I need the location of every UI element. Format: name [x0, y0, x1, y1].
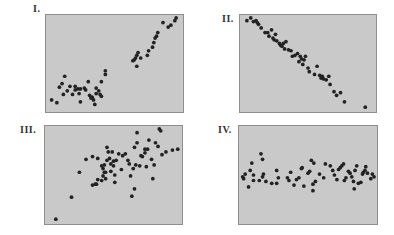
data-point [304, 54, 308, 58]
data-point [171, 148, 175, 152]
data-point [259, 152, 263, 156]
data-point [104, 170, 108, 174]
data-point [323, 162, 327, 166]
scatter-panel-2 [239, 14, 377, 113]
data-point [296, 52, 300, 56]
data-point [342, 162, 346, 166]
scatter-panel-1 [45, 14, 184, 113]
data-point [297, 60, 301, 64]
data-point [352, 180, 356, 184]
data-point [54, 217, 58, 221]
data-point [94, 92, 98, 96]
data-point [109, 169, 113, 173]
panel-label-4: IV. [218, 124, 232, 135]
data-point [139, 56, 143, 60]
data-point [135, 141, 139, 145]
data-point [308, 169, 312, 173]
data-point [73, 84, 77, 88]
data-point [311, 189, 315, 193]
data-point [343, 100, 347, 104]
data-point [133, 187, 137, 191]
data-point [333, 173, 337, 177]
data-point [266, 31, 270, 35]
data-point [134, 163, 138, 167]
data-point [359, 180, 363, 184]
data-point [123, 152, 127, 156]
data-point [101, 174, 105, 178]
data-point [372, 175, 376, 179]
data-point [108, 157, 112, 161]
data-point [151, 45, 155, 49]
data-point [68, 84, 72, 88]
data-point [63, 74, 67, 78]
data-point [50, 98, 54, 102]
scatter-plot-2 [240, 15, 376, 112]
data-point [274, 32, 278, 36]
data-point [103, 69, 107, 73]
data-point [327, 74, 331, 78]
data-point [112, 164, 116, 168]
data-point [331, 169, 335, 173]
data-point [101, 167, 105, 171]
data-point [129, 174, 133, 178]
data-point [156, 145, 160, 149]
data-point [369, 177, 373, 181]
data-point [144, 165, 148, 169]
panel-label-1: I. [33, 3, 40, 14]
data-point [150, 157, 154, 161]
data-point [120, 168, 124, 172]
data-point [252, 173, 256, 177]
data-point [84, 157, 88, 161]
data-point [270, 28, 274, 32]
data-point [117, 152, 121, 156]
data-point [55, 101, 59, 105]
data-point [322, 176, 326, 180]
data-point [350, 175, 354, 179]
data-point [242, 177, 246, 181]
data-point [353, 169, 357, 173]
data-point [257, 22, 261, 26]
data-point [58, 85, 62, 89]
data-point [164, 150, 168, 154]
data-point [335, 178, 339, 182]
data-point [289, 49, 293, 53]
data-point [131, 167, 135, 171]
data-point [141, 155, 145, 159]
data-point [297, 176, 301, 180]
data-point [275, 169, 279, 173]
data-point [366, 171, 370, 175]
data-point [307, 70, 311, 74]
data-point [86, 80, 90, 84]
data-point [155, 34, 159, 38]
data-point [96, 178, 100, 182]
data-point [300, 166, 304, 170]
data-point [348, 171, 352, 175]
data-point [133, 146, 137, 150]
data-point [130, 194, 134, 198]
data-point [135, 131, 139, 135]
data-point [262, 172, 266, 176]
data-point [344, 176, 348, 180]
data-point [275, 39, 279, 43]
data-point [70, 195, 74, 199]
data-point [100, 80, 104, 84]
data-point [252, 179, 256, 183]
data-point [143, 151, 147, 155]
data-point [270, 181, 274, 185]
data-point [243, 172, 247, 176]
data-point [103, 73, 107, 77]
data-point [71, 93, 75, 97]
data-point [156, 31, 160, 35]
data-point [127, 162, 131, 166]
data-point [169, 23, 173, 27]
data-point [257, 179, 261, 183]
data-point [248, 169, 252, 173]
data-point [284, 40, 288, 44]
data-point [113, 180, 117, 184]
data-point [292, 183, 296, 187]
data-point [174, 16, 178, 20]
data-point [135, 64, 139, 68]
data-point [332, 90, 336, 94]
data-point [79, 87, 83, 91]
data-point [147, 49, 151, 53]
